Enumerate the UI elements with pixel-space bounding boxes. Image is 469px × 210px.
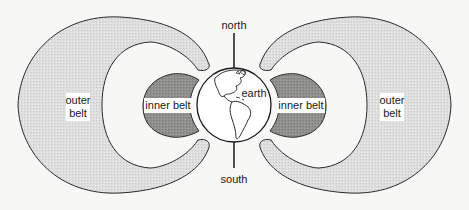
outer-belt-left-label-line1: outer: [65, 94, 90, 106]
outer-belt-left-label-line2: belt: [69, 107, 87, 119]
earth-label: earth: [241, 87, 266, 99]
inner-belt-right-label: inner belt: [278, 99, 323, 111]
outer-belt-right-label-line1: outer: [379, 94, 404, 106]
south-label: south: [221, 173, 248, 185]
north-label: north: [221, 19, 246, 31]
outer-belt-right-label-line2: belt: [383, 107, 401, 119]
earth-globe: [197, 68, 271, 142]
radiation-belts-diagram: north south earth inner belt inner belt …: [0, 0, 469, 210]
inner-belt-left-label: inner belt: [145, 99, 190, 111]
